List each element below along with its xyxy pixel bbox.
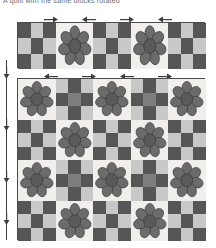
checker-cell	[31, 120, 44, 134]
checker-cell	[193, 228, 206, 242]
checker-cell	[43, 120, 56, 134]
flower-icon	[131, 23, 169, 69]
checker-cell	[18, 133, 31, 147]
flower-icon	[56, 23, 94, 69]
checker-cell	[168, 228, 181, 242]
checker-cell	[43, 133, 56, 147]
checker-cell	[93, 133, 106, 147]
checker-cell	[18, 147, 31, 161]
checker-cell	[18, 214, 31, 228]
checker-cell	[68, 93, 81, 107]
flower-block	[18, 160, 56, 201]
checker-cell	[31, 54, 44, 69]
checker-cell	[131, 174, 144, 188]
checker-cell	[31, 38, 44, 53]
flower-block	[131, 120, 169, 161]
flower-block	[131, 201, 169, 242]
checker-cell	[43, 54, 56, 69]
checker-cell	[106, 147, 119, 161]
checker-cell	[181, 38, 194, 53]
checker-cell	[106, 54, 119, 69]
flower-icon	[18, 79, 56, 120]
flower-icon	[131, 120, 169, 161]
checker-cell	[81, 160, 94, 174]
flower-block	[131, 23, 169, 69]
checker-cell	[18, 201, 31, 215]
checker-cell	[131, 160, 144, 174]
checker-cell	[118, 147, 131, 161]
flower-block	[168, 160, 206, 201]
checker-cell	[118, 214, 131, 228]
checker-cell	[43, 38, 56, 53]
checker-cell	[31, 214, 44, 228]
checkerboard-block	[18, 120, 56, 161]
checker-cell	[143, 187, 156, 201]
checker-cell	[93, 201, 106, 215]
checker-cell	[143, 174, 156, 188]
checker-cell	[56, 106, 69, 120]
checkerboard-block	[168, 201, 206, 242]
checker-cell	[68, 187, 81, 201]
checker-cell	[156, 106, 169, 120]
checker-cell	[106, 120, 119, 134]
checker-cell	[18, 23, 31, 38]
checker-cell	[181, 120, 194, 134]
checker-cell	[68, 106, 81, 120]
checker-cell	[181, 23, 194, 38]
checker-cell	[56, 79, 69, 93]
checker-cell	[56, 187, 69, 201]
checker-cell	[68, 174, 81, 188]
flower-block	[93, 79, 131, 120]
checker-cell	[18, 54, 31, 69]
checker-cell	[81, 93, 94, 107]
checker-cell	[93, 147, 106, 161]
checker-cell	[168, 133, 181, 147]
flower-icon	[93, 160, 131, 201]
checker-cell	[31, 201, 44, 215]
checkerboard-block	[93, 23, 131, 69]
checker-cell	[118, 201, 131, 215]
flower-icon	[18, 160, 56, 201]
checkerboard-block	[93, 201, 131, 242]
checkerboard-block	[131, 160, 169, 201]
checker-cell	[43, 147, 56, 161]
checker-cell	[193, 23, 206, 38]
checker-cell	[181, 201, 194, 215]
flower-block	[168, 79, 206, 120]
diagram-caption: A quilt with the same blocks rotated	[3, 0, 153, 6]
checker-cell	[18, 228, 31, 242]
checker-cell	[31, 23, 44, 38]
checker-cell	[81, 106, 94, 120]
quilt-grid	[17, 78, 205, 240]
checker-cell	[168, 120, 181, 134]
checker-cell	[143, 93, 156, 107]
checkerboard-block	[168, 120, 206, 161]
flower-block	[18, 79, 56, 120]
flower-block	[56, 201, 94, 242]
checker-cell	[193, 133, 206, 147]
checker-cell	[181, 228, 194, 242]
checkerboard-block	[18, 201, 56, 242]
rotation-arrow-down	[3, 170, 10, 184]
checker-cell	[93, 54, 106, 69]
flower-block	[56, 120, 94, 161]
checker-cell	[56, 93, 69, 107]
checker-cell	[93, 214, 106, 228]
checker-cell	[93, 38, 106, 53]
checker-cell	[81, 174, 94, 188]
checker-cell	[156, 160, 169, 174]
rotation-arrow-down	[3, 212, 10, 226]
checker-cell	[118, 120, 131, 134]
checker-cell	[106, 214, 119, 228]
flower-icon	[168, 79, 206, 120]
rotation-arrow-down	[3, 66, 10, 80]
checker-cell	[193, 54, 206, 69]
checker-cell	[43, 201, 56, 215]
checker-cell	[81, 187, 94, 201]
checker-cell	[93, 228, 106, 242]
checker-cell	[168, 54, 181, 69]
checker-cell	[68, 79, 81, 93]
checker-cell	[143, 79, 156, 93]
checker-cell	[43, 23, 56, 38]
checker-cell	[156, 93, 169, 107]
